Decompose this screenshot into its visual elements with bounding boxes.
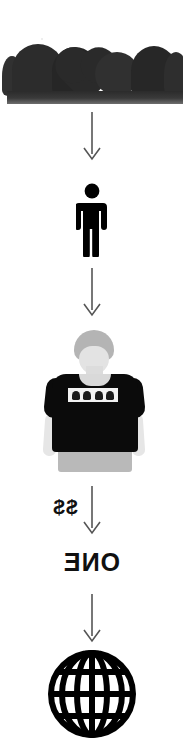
tshirt-composition [0,330,183,472]
step-globe-icon [0,648,183,740]
person-icon [76,183,108,257]
tray-surface [7,91,183,104]
print-glyph [95,391,103,400]
arrow-2 [0,268,183,318]
globe-icon [48,648,136,740]
arrow-down-icon [77,268,107,318]
print-glyph [72,391,80,400]
tshirt-graphic-print [68,388,118,402]
cookie-shape-4 [164,52,183,96]
flow-diagram: $$ ONE [0,0,183,740]
print-glyph [106,391,114,400]
cookies-composition [0,34,183,104]
price-label: $$ [22,495,108,519]
arrow-1 [0,112,183,162]
step-cookies-image [0,34,183,104]
step-person-icon [0,183,183,259]
highlight-speck [41,38,43,40]
quantity-label: ONE [0,548,183,577]
arrow-down-icon [77,594,107,644]
arrow-down-icon [77,112,107,162]
step-tshirt-image [0,330,183,472]
arrow-4 [0,594,183,644]
print-glyph [83,391,91,400]
